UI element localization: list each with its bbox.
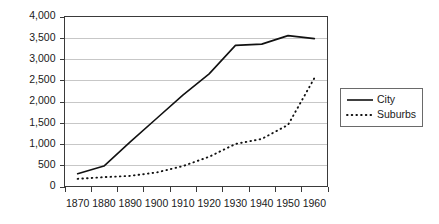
- y-axis-tick-label: 500: [38, 158, 56, 170]
- y-axis-tick-label: 1,500: [29, 116, 55, 128]
- x-axis-tick-label: 1940: [250, 197, 274, 209]
- x-axis-tick-label: 1890: [119, 197, 143, 209]
- legend: City Suburbs: [341, 89, 423, 127]
- legend-label-city: City: [377, 93, 396, 105]
- y-axis-tick-label: 3,000: [29, 52, 55, 64]
- y-axis-tick-label: 2,000: [29, 94, 55, 106]
- y-axis-tick-label: 1,000: [29, 137, 55, 149]
- y-axis-tick-label: 3,500: [29, 31, 55, 43]
- y-axis-tick-label: 0: [50, 179, 56, 191]
- x-axis-tick-label: 1960: [303, 197, 327, 209]
- x-axis-tick-label: 1900: [145, 197, 169, 209]
- line-chart: 05001,0001,5002,0002,5003,0003,5004,000 …: [0, 0, 439, 224]
- y-axis-tick-label: 4,000: [29, 9, 55, 21]
- x-axis-tick-label: 1910: [171, 197, 195, 209]
- x-axis-tick-label: 1930: [224, 197, 248, 209]
- chart-canvas: 05001,0001,5002,0002,5003,0003,5004,000 …: [0, 0, 439, 224]
- legend-label-suburbs: Suburbs: [377, 108, 416, 120]
- x-axis-tick-label: 1920: [197, 197, 221, 209]
- x-axis-tick-label: 1870: [66, 197, 90, 209]
- y-axis-tick-label: 2,500: [29, 73, 55, 85]
- x-axis-tick-label: 1880: [92, 197, 116, 209]
- x-axis-tick-label: 1950: [276, 197, 300, 209]
